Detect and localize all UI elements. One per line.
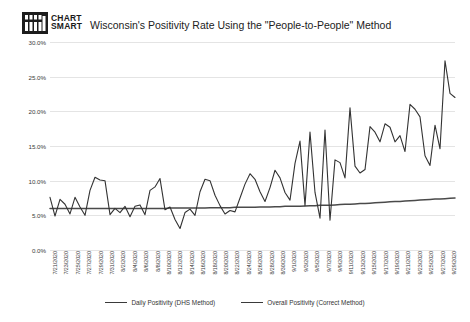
x-axis-tick-label: 8/22/2020 [235,251,240,275]
x-axis-tick-label: 8/2/2020 [121,251,126,272]
y-axis: 0.0%5.0%10.0%15.0%20.0%25.0%30.0% [0,42,46,250]
y-axis-tick-label: 25.0% [28,73,46,80]
x-axis-tick-label: 8/18/2020 [213,251,218,275]
x-axis-tick-label: 8/4/2020 [133,251,138,272]
series-line-daily-positivity [50,61,455,229]
chart-container: CHART SMART Wisconsin's Positivity Rate … [0,0,470,322]
x-axis-tick-label: 9/17/2020 [384,251,389,275]
series-line-overall-positivity [50,198,455,208]
x-axis-tick-label: 9/5/2020 [315,251,320,272]
x-axis-tick-label: 9/7/2020 [327,251,332,272]
x-axis-tick-label: 9/13/2020 [361,251,366,275]
legend-item[interactable]: Daily Positivity (DHS Method) [105,299,215,306]
y-axis-tick-label: 5.0% [32,212,46,219]
legend-label: Daily Positivity (DHS Method) [131,299,215,306]
x-axis-tick-label: 8/10/2020 [167,251,172,275]
x-axis-tick-label: 8/16/2020 [201,251,206,275]
x-axis: 7/21/20207/23/20207/25/20207/27/20207/29… [50,251,455,295]
x-axis-tick-label: 8/12/2020 [178,251,183,275]
x-axis-tick-label: 8/14/2020 [190,251,195,275]
x-axis-tick-label: 8/30/2020 [281,251,286,275]
x-axis-tick-label: 9/1/2020 [292,251,297,272]
x-axis-tick-label: 7/31/2020 [110,251,115,275]
x-axis-tick-label: 9/11/2020 [349,251,354,274]
x-axis-tick-label: 9/25/2020 [429,251,434,275]
logo-line-2: SMART [51,22,82,31]
legend-swatch-icon [241,302,263,304]
bar-chart-logo-icon [22,10,48,34]
x-axis-tick-label: 8/20/2020 [224,251,229,275]
x-axis-tick-label: 7/27/2020 [87,251,92,275]
series-layer [50,42,455,250]
x-axis-tick-label: 7/23/2020 [64,251,69,275]
x-axis-tick-label: 9/23/2020 [418,251,423,275]
legend-label: Overall Positivity (Correct Method) [267,299,364,306]
legend-swatch-icon [105,302,127,304]
x-axis-tick-label: 9/29/2020 [452,251,457,275]
y-axis-tick-label: 15.0% [28,143,46,150]
x-axis-tick-label: 8/28/2020 [270,251,275,275]
y-axis-tick-label: 10.0% [28,177,46,184]
chart-legend: Daily Positivity (DHS Method)Overall Pos… [0,299,470,306]
y-axis-tick-label: 0.0% [32,247,46,254]
x-axis-tick-label: 7/21/2020 [53,251,58,275]
y-axis-tick-label: 20.0% [28,108,46,115]
y-axis-tick-label: 30.0% [28,39,46,46]
legend-item[interactable]: Overall Positivity (Correct Method) [241,299,364,306]
x-axis-tick-label: 7/25/2020 [76,251,81,275]
chart-title: Wisconsin's Positivity Rate Using the "P… [90,19,420,31]
x-axis-tick-label: 9/3/2020 [304,251,309,272]
x-axis-tick-label: 9/15/2020 [372,251,377,275]
x-axis-tick-label: 7/29/2020 [99,251,104,275]
x-axis-tick-label: 8/26/2020 [258,251,263,275]
x-axis-tick-label: 8/6/2020 [144,251,149,272]
plot-area [50,42,455,250]
chart-smart-logo: CHART SMART [22,10,82,34]
x-axis-tick-label: 8/8/2020 [156,251,161,272]
x-axis-tick-label: 9/9/2020 [338,251,343,272]
x-axis-tick-label: 9/27/2020 [441,251,446,275]
x-axis-tick-label: 9/21/2020 [406,251,411,275]
x-axis-tick-label: 9/19/2020 [395,251,400,275]
x-axis-tick-label: 8/24/2020 [247,251,252,275]
